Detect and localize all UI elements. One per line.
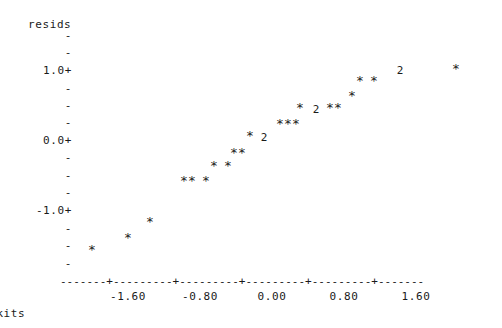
data-point-marker: * [144,216,156,227]
data-point-marker: * [222,160,234,171]
x-tick-label-0: -1.60 [98,290,158,303]
data-point-overplot: 2 [310,104,322,115]
x-tick-label-1: -0.80 [170,290,230,303]
data-point-marker: * [346,90,358,101]
y-tick-7: - [0,151,72,164]
y-tick-1: - [0,46,72,59]
data-point-marker: * [368,75,380,86]
y-tick-8: - [0,169,72,182]
data-point-marker: * [450,63,462,74]
y-tick-11: - [0,222,72,235]
y-tick-12: - [0,239,72,252]
data-point-marker: * [236,147,248,158]
data-point-overplot: 2 [394,65,406,76]
x-axis-title: Rankits [0,307,60,320]
y-tick-6: 0.0+ [0,134,72,147]
data-point-marker: * [294,102,306,113]
y-tick-13: - [0,257,72,270]
y-tick-10: -1.0+ [0,204,72,217]
data-point-marker: * [244,130,256,141]
data-point-marker: * [86,244,98,255]
data-point-marker: * [332,102,344,113]
y-tick-9: - [0,186,72,199]
y-tick-5: - [0,116,72,129]
x-axis-line: -------+---------+---------+---------+--… [60,276,424,288]
x-tick-label-4: 1.60 [386,290,446,303]
x-tick-label-3: 0.80 [314,290,374,303]
data-point-marker: * [200,175,212,186]
data-point-marker: * [354,75,366,86]
data-point-overplot: 2 [258,132,270,143]
y-tick-4: - [0,99,72,112]
x-tick-label-2: 0.00 [242,290,302,303]
y-tick-0: - [0,29,72,42]
data-point-marker: * [290,118,302,129]
y-tick-3: - [0,82,72,95]
probability-plot: resids --1.0+---0.0+----1.0+--- -------+… [0,0,502,328]
data-point-marker: * [208,160,220,171]
data-point-marker: * [186,175,198,186]
y-tick-2: 1.0+ [0,64,72,77]
data-point-marker: * [122,232,134,243]
